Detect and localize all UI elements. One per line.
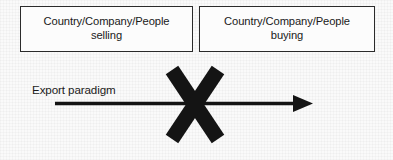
flow-arrow-group — [0, 0, 393, 160]
diagram-canvas: Country/Company/People selling Country/C… — [0, 0, 393, 160]
arrowhead-icon — [293, 95, 313, 112]
